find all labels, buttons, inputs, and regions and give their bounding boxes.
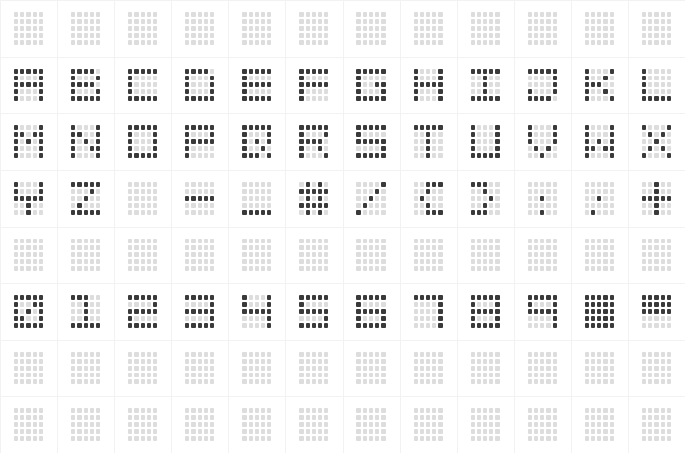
char-cell-hash[interactable] — [285, 170, 342, 227]
char-cell-blank[interactable] — [114, 0, 171, 57]
char-cell-letter-x[interactable] — [628, 113, 685, 170]
char-cell-blank[interactable] — [57, 396, 114, 453]
char-cell-letter-y[interactable] — [0, 170, 57, 227]
char-cell-blank[interactable] — [285, 396, 342, 453]
char-cell-blank[interactable] — [285, 0, 342, 57]
char-cell-blank[interactable] — [628, 396, 685, 453]
char-cell-blank[interactable] — [457, 396, 514, 453]
char-cell-blank[interactable] — [0, 0, 57, 57]
char-cell-blank[interactable] — [628, 0, 685, 57]
char-cell-blank[interactable] — [0, 340, 57, 397]
char-cell-letter-k[interactable] — [571, 57, 628, 114]
char-cell-letter-o[interactable] — [114, 113, 171, 170]
char-cell-digit-8[interactable] — [457, 283, 514, 340]
char-cell-blank[interactable] — [228, 227, 285, 284]
char-cell-blank[interactable] — [514, 340, 571, 397]
char-cell-semicolon[interactable] — [571, 170, 628, 227]
char-cell-digit-6[interactable] — [342, 283, 399, 340]
char-cell-blank[interactable] — [514, 0, 571, 57]
dot — [20, 26, 24, 31]
dot — [39, 295, 43, 300]
char-cell-blank[interactable] — [571, 396, 628, 453]
char-cell-letter-n[interactable] — [57, 113, 114, 170]
char-cell-letter-a[interactable] — [0, 57, 57, 114]
char-cell-letter-b[interactable] — [57, 57, 114, 114]
char-cell-blank[interactable] — [171, 0, 228, 57]
char-cell-blank[interactable] — [400, 227, 457, 284]
char-cell-blank[interactable] — [628, 340, 685, 397]
char-cell-blank[interactable] — [114, 227, 171, 284]
char-cell-letter-p[interactable] — [171, 113, 228, 170]
char-cell-letter-j[interactable] — [514, 57, 571, 114]
char-cell-letter-l[interactable] — [628, 57, 685, 114]
char-cell-digit-3[interactable] — [171, 283, 228, 340]
char-cell-blank[interactable] — [400, 0, 457, 57]
char-cell-blank[interactable] — [0, 396, 57, 453]
char-cell-letter-c[interactable] — [114, 57, 171, 114]
char-cell-letter-z[interactable] — [57, 170, 114, 227]
char-cell-blank[interactable] — [285, 340, 342, 397]
char-cell-letter-f[interactable] — [285, 57, 342, 114]
char-cell-digit-7[interactable] — [400, 283, 457, 340]
char-cell-letter-i[interactable] — [457, 57, 514, 114]
dot — [356, 302, 360, 307]
char-cell-slash[interactable] — [342, 170, 399, 227]
char-cell-blank[interactable] — [114, 396, 171, 453]
char-cell-blank[interactable] — [171, 227, 228, 284]
char-cell-letter-g[interactable] — [342, 57, 399, 114]
char-cell-digit-9[interactable] — [514, 283, 571, 340]
dot — [210, 146, 214, 151]
char-cell-letter-d[interactable] — [171, 57, 228, 114]
char-cell-blank[interactable] — [285, 227, 342, 284]
char-cell-blank[interactable] — [457, 340, 514, 397]
char-cell-upper-half-block[interactable] — [628, 283, 685, 340]
char-cell-letter-e[interactable] — [228, 57, 285, 114]
char-cell-blank[interactable] — [628, 227, 685, 284]
char-cell-blank[interactable] — [57, 227, 114, 284]
char-cell-letter-s[interactable] — [342, 113, 399, 170]
char-cell-blank[interactable] — [571, 227, 628, 284]
char-cell-blank[interactable] — [514, 227, 571, 284]
char-cell-blank[interactable] — [57, 340, 114, 397]
char-cell-underscore[interactable] — [228, 170, 285, 227]
char-cell-plus[interactable] — [628, 170, 685, 227]
char-cell-blank[interactable] — [114, 340, 171, 397]
char-cell-letter-r[interactable] — [285, 113, 342, 170]
char-cell-blank[interactable] — [228, 0, 285, 57]
char-cell-blank[interactable] — [457, 227, 514, 284]
char-cell-blank[interactable] — [400, 396, 457, 453]
char-cell-digit-2[interactable] — [114, 283, 171, 340]
char-cell-letter-q[interactable] — [228, 113, 285, 170]
char-cell-digit-4[interactable] — [228, 283, 285, 340]
char-cell-blank[interactable] — [0, 227, 57, 284]
char-cell-paren-left[interactable] — [400, 170, 457, 227]
char-cell-blank[interactable] — [228, 340, 285, 397]
char-cell-paren-right[interactable] — [457, 170, 514, 227]
char-cell-digit-5[interactable] — [285, 283, 342, 340]
char-cell-letter-u[interactable] — [457, 113, 514, 170]
char-cell-letter-t[interactable] — [400, 113, 457, 170]
char-cell-letter-m[interactable] — [0, 113, 57, 170]
char-cell-digit-1[interactable] — [57, 283, 114, 340]
char-cell-blank[interactable] — [571, 340, 628, 397]
char-cell-blank[interactable] — [342, 340, 399, 397]
char-cell-blank[interactable] — [342, 0, 399, 57]
char-cell-blank[interactable] — [57, 0, 114, 57]
char-cell-blank[interactable] — [342, 227, 399, 284]
char-cell-full-block[interactable] — [571, 283, 628, 340]
char-cell-letter-h[interactable] — [400, 57, 457, 114]
char-cell-blank[interactable] — [171, 340, 228, 397]
char-cell-blank[interactable] — [400, 340, 457, 397]
char-cell-letter-v[interactable] — [514, 113, 571, 170]
char-cell-blank[interactable] — [342, 396, 399, 453]
char-cell-blank[interactable] — [514, 396, 571, 453]
char-cell-letter-w[interactable] — [571, 113, 628, 170]
char-cell-digit-0[interactable] — [0, 283, 57, 340]
char-cell-blank[interactable] — [114, 170, 171, 227]
char-cell-blank[interactable] — [571, 0, 628, 57]
char-cell-blank[interactable] — [228, 396, 285, 453]
char-cell-blank[interactable] — [457, 0, 514, 57]
char-cell-hyphen[interactable] — [171, 170, 228, 227]
char-cell-blank[interactable] — [171, 396, 228, 453]
char-cell-colon[interactable] — [514, 170, 571, 227]
